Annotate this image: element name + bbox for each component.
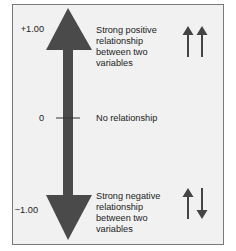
- scale-label-top: +1.00: [18, 24, 44, 34]
- double-headed-vertical-arrow-icon: [46, 8, 92, 240]
- up-down-arrows-icon: [183, 188, 208, 219]
- negative-relationship-label: Strong negative relationship between two…: [96, 191, 160, 235]
- two-up-arrows-icon: [183, 26, 208, 57]
- scale-label-bottom: −1.00: [12, 205, 38, 215]
- positive-relationship-label: Strong positive relationship between two…: [96, 25, 157, 69]
- scale-label-zero: 0: [18, 113, 44, 123]
- no-relationship-label: No relationship: [96, 113, 157, 124]
